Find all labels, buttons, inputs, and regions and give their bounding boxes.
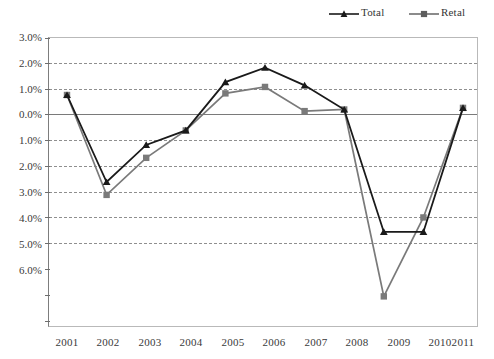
gridline-1: [49, 89, 477, 90]
y-tick-label: 2.0%: [0, 57, 42, 69]
y-tick: [45, 114, 50, 115]
gridline-neg2: [49, 166, 477, 167]
y-tick-label: 1.0%: [0, 83, 42, 95]
y-tick: [45, 295, 50, 296]
y-tick: [45, 321, 50, 322]
x-tick-label: 2009: [379, 336, 419, 348]
y-tick-label: 1.0%: [0, 134, 42, 146]
x-tick-label: 2007: [296, 336, 336, 348]
x-tick-label: 2006: [254, 336, 294, 348]
y-tick-label: 0.0%: [0, 108, 42, 120]
line-chart: Total Retal 3.0% 2.0% 1.0% 0.0% 1.0% 2.0…: [0, 0, 494, 359]
y-tick-label: 6.0%: [0, 264, 42, 276]
x-tick-label: 2002: [88, 336, 128, 348]
gridline-neg4: [49, 217, 477, 218]
x-tick-label: 2001: [47, 336, 87, 348]
y-tick: [45, 166, 50, 167]
y-tick: [45, 269, 50, 270]
y-tick-label: 4.0%: [0, 212, 42, 224]
gridline-neg1: [49, 140, 477, 141]
y-tick-label: 3.0%: [0, 31, 42, 43]
x-tick-label: 2008: [337, 336, 377, 348]
legend-label-retail: Retal: [439, 6, 465, 18]
square-marker-icon: [409, 6, 439, 18]
gridline-neg5: [49, 243, 477, 244]
x-tick-label: 2005: [213, 336, 253, 348]
y-tick-label: 2.0%: [0, 160, 42, 172]
gridline-zero: [49, 114, 477, 115]
y-tick: [45, 63, 50, 64]
legend-item-total[interactable]: Total: [329, 3, 384, 21]
y-tick: [45, 140, 50, 141]
triangle-marker-icon: [329, 6, 359, 18]
x-tick-label: 2011: [443, 336, 483, 348]
y-tick-label: 3.0%: [0, 186, 42, 198]
y-tick: [45, 89, 50, 90]
y-tick: [45, 243, 50, 244]
y-tick: [45, 217, 50, 218]
y-tick: [45, 38, 50, 39]
x-tick-label: 2003: [130, 336, 170, 348]
gridline-2: [49, 63, 477, 64]
y-tick: [45, 192, 50, 193]
x-tick-label: 2004: [171, 336, 211, 348]
plot-area: [48, 37, 478, 327]
gridline-neg3: [49, 192, 477, 193]
chart-legend: Total Retal: [0, 0, 494, 26]
legend-item-retail[interactable]: Retal: [409, 3, 465, 21]
legend-label-total: Total: [359, 6, 384, 18]
y-tick-label: 5.0%: [0, 238, 42, 250]
